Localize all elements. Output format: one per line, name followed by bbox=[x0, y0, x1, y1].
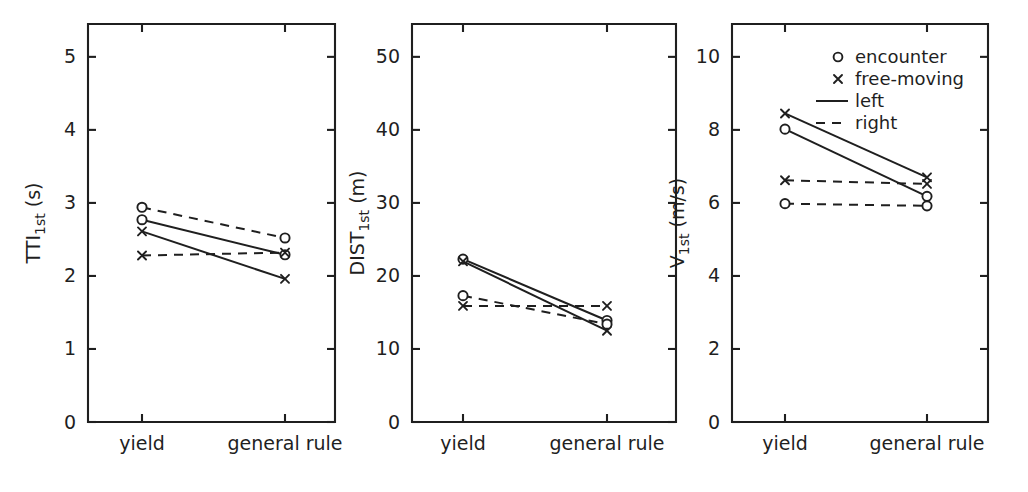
x-category-label: general rule bbox=[869, 432, 984, 454]
open-circle-marker bbox=[780, 125, 789, 134]
open-circle-marker bbox=[780, 199, 789, 208]
y-axis-label: V1st (m/s) bbox=[666, 178, 692, 268]
legend-cross-marker bbox=[834, 75, 842, 83]
y-axis-label-unit: (m/s) bbox=[666, 178, 688, 234]
legend-open-circle-marker bbox=[834, 53, 843, 62]
cross-marker bbox=[923, 180, 931, 188]
series-line bbox=[785, 180, 927, 184]
y-tick-label: 4 bbox=[708, 264, 720, 286]
y-axis-label-subscript: 1st bbox=[676, 233, 692, 255]
y-tick-label: 0 bbox=[708, 411, 720, 433]
x-category-label: yield bbox=[762, 432, 808, 454]
legend-label-encounter: encounter bbox=[855, 46, 947, 67]
y-axis-label-main: V bbox=[666, 255, 688, 268]
figure-root: 012345yieldgeneral ruleTTI1st (s)0102030… bbox=[0, 0, 1028, 492]
series-line bbox=[785, 204, 927, 206]
y-tick-label: 10 bbox=[696, 45, 720, 67]
legend-label-right: right bbox=[855, 112, 897, 133]
open-circle-marker bbox=[922, 192, 931, 201]
series-line bbox=[785, 129, 927, 196]
open-circle-marker bbox=[922, 201, 931, 210]
y-tick-label: 2 bbox=[708, 337, 720, 359]
legend-label-free-moving: free-moving bbox=[855, 68, 964, 89]
cross-marker bbox=[781, 109, 789, 117]
chart-canvas-c: 0246810yieldgeneral ruleV1st (m/s)encoun… bbox=[0, 0, 1028, 492]
y-tick-label: 8 bbox=[708, 118, 720, 140]
y-tick-label: 6 bbox=[708, 191, 720, 213]
legend-label-left: left bbox=[855, 90, 884, 111]
chart-panel-c: 0246810yieldgeneral ruleV1st (m/s)encoun… bbox=[0, 0, 1028, 492]
